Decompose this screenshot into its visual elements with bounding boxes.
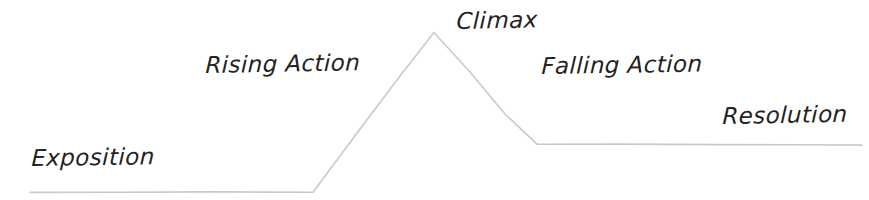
stage-label-rising-action: Rising Action [205, 51, 361, 77]
stage-label-resolution: Resolution [722, 103, 848, 128]
plot-diagram: Exposition Rising Action Climax Falling … [0, 0, 869, 200]
story-arc-line [0, 0, 869, 200]
stage-label-exposition: Exposition [31, 145, 155, 170]
stage-label-climax: Climax [456, 8, 538, 33]
stage-label-falling-action: Falling Action [541, 52, 703, 78]
